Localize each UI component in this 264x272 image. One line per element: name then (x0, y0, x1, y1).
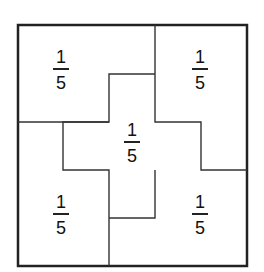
top-left-boundary (18, 74, 155, 122)
numerator: 1 (185, 48, 215, 65)
numerator: 1 (46, 48, 76, 65)
fraction-bar (192, 213, 208, 215)
fraction-bar (124, 141, 140, 143)
fraction-bar (192, 68, 208, 70)
denominator: 5 (185, 219, 215, 236)
numerator: 1 (117, 121, 147, 138)
numerator: 1 (46, 193, 76, 210)
fraction-bar (53, 213, 69, 215)
fraction-top-right: 1 5 (185, 48, 215, 91)
fraction-top-left: 1 5 (46, 48, 76, 91)
denominator: 5 (117, 147, 147, 164)
fraction-bar (53, 68, 69, 70)
denominator: 5 (46, 219, 76, 236)
denominator: 5 (185, 74, 215, 91)
numerator: 1 (185, 193, 215, 210)
denominator: 5 (46, 74, 76, 91)
fraction-bottom-left: 1 5 (46, 193, 76, 236)
fraction-center: 1 5 (117, 121, 147, 164)
cross-bottom-right (109, 170, 155, 218)
fraction-bottom-right: 1 5 (185, 193, 215, 236)
